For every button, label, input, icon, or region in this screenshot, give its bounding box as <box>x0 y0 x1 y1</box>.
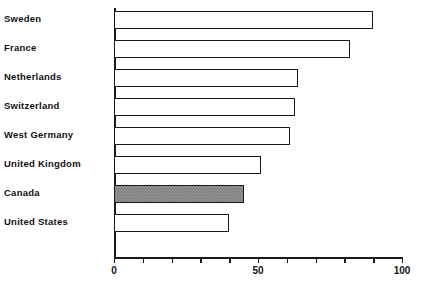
value-tick-10 <box>143 258 144 263</box>
bar-chart: Sweden France Netherlands Switzerland We… <box>0 0 424 286</box>
bar-netherlands <box>114 69 298 87</box>
category-label-sweden: Sweden <box>4 13 102 24</box>
value-tick-30 <box>200 258 201 263</box>
bar-west-germany <box>114 127 290 145</box>
value-tick-80 <box>344 258 345 263</box>
value-tick-100 <box>402 258 403 263</box>
value-tick-0 <box>114 258 115 263</box>
plot-area <box>114 0 404 258</box>
category-label-canada: Canada <box>4 187 102 198</box>
value-tick-label-0: 0 <box>111 265 117 276</box>
value-tick-20 <box>172 258 173 263</box>
value-tick-label-50: 50 <box>252 265 263 276</box>
bar-united-kingdom <box>114 156 261 174</box>
bar-united-states <box>114 214 229 232</box>
value-tick-70 <box>316 258 317 263</box>
bar-france <box>114 40 350 58</box>
category-label-switzerland: Switzerland <box>4 100 102 111</box>
category-label-west-germany: West Germany <box>4 129 102 140</box>
bar-canada <box>114 185 244 203</box>
value-tick-40 <box>229 258 230 263</box>
value-tick-50 <box>258 258 259 263</box>
value-tick-60 <box>287 258 288 263</box>
value-tick-label-100: 100 <box>394 265 411 276</box>
bar-sweden <box>114 11 373 29</box>
category-label-united-states: United States <box>4 216 102 227</box>
category-label-united-kingdom: United Kingdom <box>4 158 102 169</box>
bar-switzerland <box>114 98 295 116</box>
category-label-france: France <box>4 42 102 53</box>
value-axis: 0 50 100 <box>114 257 404 286</box>
value-tick-90 <box>373 258 374 263</box>
category-axis-labels: Sweden France Netherlands Switzerland We… <box>0 0 108 258</box>
category-label-netherlands: Netherlands <box>4 71 102 82</box>
